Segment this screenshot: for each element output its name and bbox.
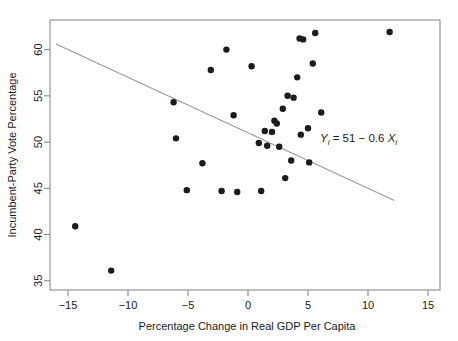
x-axis-ticks: −15−10−5051015 [59, 290, 434, 311]
data-point [269, 129, 275, 135]
x-tick-label: 5 [305, 299, 311, 311]
y-tick-label: 40 [32, 228, 44, 240]
data-point [230, 112, 236, 118]
data-point [305, 125, 311, 131]
data-point [234, 189, 240, 195]
data-point [108, 267, 114, 273]
data-point [256, 140, 262, 146]
y-tick-label: 60 [32, 43, 44, 55]
data-point [298, 131, 304, 137]
x-tick-label: −10 [119, 299, 138, 311]
x-tick-label: −15 [59, 299, 78, 311]
plot-frame [50, 20, 440, 290]
x-axis-title: Percentage Change in Real GDP Per Capita [139, 320, 357, 332]
data-point [276, 143, 282, 149]
y-tick-label: 45 [32, 182, 44, 194]
data-point [258, 188, 264, 194]
data-point [170, 99, 176, 105]
equation-annotation: Yi = 51 − 0.6 Xi [320, 132, 397, 147]
data-point [288, 157, 294, 163]
data-point [223, 46, 229, 52]
data-point [208, 67, 214, 73]
data-point [290, 94, 296, 100]
y-tick-label: 50 [32, 136, 44, 148]
data-points [72, 29, 393, 274]
scatter-plot-figure: −15−10−5051015 354045505560 Yi = 51 − 0.… [0, 0, 458, 341]
plot-canvas: −15−10−5051015 354045505560 Yi = 51 − 0.… [0, 0, 458, 341]
data-point [262, 128, 268, 134]
y-axis-ticks: 354045505560 [32, 43, 50, 286]
data-point [318, 109, 324, 115]
data-point [218, 188, 224, 194]
data-point [306, 159, 312, 165]
data-point [264, 143, 270, 149]
data-point [284, 93, 290, 99]
regression-line [56, 44, 394, 200]
data-point [312, 30, 318, 36]
data-point [173, 135, 179, 141]
data-point [184, 187, 190, 193]
y-tick-label: 35 [32, 275, 44, 287]
data-point [294, 74, 300, 80]
data-point [274, 120, 280, 126]
regression-equation-text: Yi = 51 − 0.6 Xi [320, 132, 397, 147]
data-point [72, 223, 78, 229]
data-point [386, 29, 392, 35]
data-point [300, 36, 306, 42]
data-point [199, 160, 205, 166]
y-tick-label: 55 [32, 90, 44, 102]
y-axis-title: Incumbent-Party Vote Percentage [6, 72, 18, 237]
data-point [248, 63, 254, 69]
data-point [310, 60, 316, 66]
x-tick-label: −5 [182, 299, 195, 311]
x-tick-label: 15 [422, 299, 434, 311]
data-point [280, 106, 286, 112]
x-tick-label: 10 [362, 299, 374, 311]
x-tick-label: 0 [245, 299, 251, 311]
data-point [282, 175, 288, 181]
